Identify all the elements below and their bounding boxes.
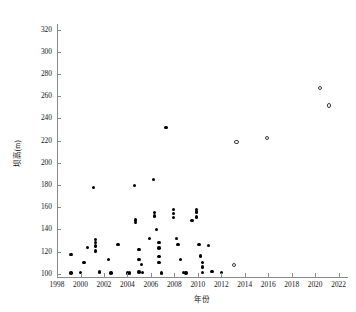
data-point-filled bbox=[109, 271, 112, 274]
data-point-filled bbox=[107, 258, 110, 261]
data-point-filled bbox=[172, 216, 175, 219]
data-point-open bbox=[234, 140, 238, 144]
data-point-filled bbox=[86, 246, 89, 249]
data-point-open bbox=[265, 136, 269, 140]
y-axis-tick bbox=[57, 229, 61, 230]
data-point-filled bbox=[195, 215, 198, 218]
y-axis-tick bbox=[57, 141, 61, 142]
data-point-filled bbox=[157, 246, 160, 249]
data-point-filled bbox=[137, 248, 140, 251]
data-point-filled bbox=[157, 255, 160, 258]
data-point-filled bbox=[137, 258, 140, 261]
data-point-filled bbox=[157, 261, 160, 264]
data-point-filled bbox=[134, 221, 137, 224]
y-axis-tick-label: 140 bbox=[24, 225, 52, 232]
data-point-filled bbox=[201, 271, 204, 274]
x-axis-tick bbox=[174, 273, 175, 277]
data-point-filled bbox=[210, 270, 213, 273]
x-axis-tick bbox=[268, 273, 269, 277]
y-axis-tick bbox=[57, 52, 61, 53]
data-point-filled bbox=[207, 244, 210, 247]
x-axis-tick bbox=[245, 273, 246, 277]
data-point-filled bbox=[201, 261, 204, 264]
data-point-filled bbox=[116, 243, 119, 246]
data-point-filled bbox=[141, 271, 144, 274]
data-point-filled bbox=[128, 271, 131, 274]
x-axis-tick bbox=[339, 273, 340, 277]
data-point-filled bbox=[82, 261, 85, 264]
data-point-filled bbox=[152, 178, 155, 181]
y-axis-tick bbox=[57, 30, 61, 31]
data-point-filled bbox=[164, 126, 167, 129]
x-axis-tick bbox=[81, 273, 82, 277]
x-axis-tick bbox=[127, 273, 128, 277]
data-point-filled bbox=[140, 263, 143, 266]
x-axis-tick bbox=[57, 273, 58, 277]
data-point-open bbox=[327, 103, 331, 107]
data-point-filled bbox=[157, 241, 160, 244]
data-point-filled bbox=[98, 270, 101, 273]
y-axis-tick bbox=[57, 207, 61, 208]
data-point-filled bbox=[184, 271, 187, 274]
data-point-filled bbox=[197, 243, 200, 246]
y-axis-tick-label: 220 bbox=[24, 137, 52, 144]
y-axis-tick-label: 260 bbox=[24, 92, 52, 99]
y-axis-tick-label: 160 bbox=[24, 203, 52, 210]
data-point-filled bbox=[190, 219, 193, 222]
y-axis-tick-label: 320 bbox=[24, 26, 52, 33]
y-axis-tick bbox=[57, 163, 61, 164]
data-point-filled bbox=[69, 253, 72, 256]
data-point-filled bbox=[179, 258, 182, 261]
scatter-chart: 坝高(m) 年份 1001201401601802002202402602803… bbox=[0, 0, 356, 312]
data-point-open bbox=[232, 263, 236, 267]
data-point-filled bbox=[160, 271, 163, 274]
x-axis-tick bbox=[315, 273, 316, 277]
x-axis-tick bbox=[104, 273, 105, 277]
y-axis-tick-label: 200 bbox=[24, 159, 52, 166]
x-axis-tick bbox=[151, 273, 152, 277]
y-axis-tick-label: 100 bbox=[24, 270, 52, 277]
data-point-filled bbox=[94, 244, 97, 247]
y-axis-tick-label: 300 bbox=[24, 48, 52, 55]
data-point-filled bbox=[155, 228, 158, 231]
y-axis-tick-label: 120 bbox=[24, 248, 52, 255]
data-point-filled bbox=[172, 212, 175, 215]
x-axis-tick bbox=[221, 273, 222, 277]
data-point-filled bbox=[94, 249, 97, 252]
data-point-filled bbox=[175, 237, 178, 240]
data-point-filled bbox=[195, 210, 198, 213]
data-point-filled bbox=[176, 243, 179, 246]
x-axis-tick bbox=[198, 273, 199, 277]
data-point-filled bbox=[92, 186, 95, 189]
y-axis-tick-label: 240 bbox=[24, 114, 52, 121]
data-point-filled bbox=[201, 265, 204, 268]
x-axis-tick bbox=[292, 273, 293, 277]
data-point-filled bbox=[133, 184, 136, 187]
y-axis-tick-label: 180 bbox=[24, 181, 52, 188]
x-axis-tick-label: 2022 bbox=[325, 281, 353, 288]
y-axis-tick bbox=[57, 185, 61, 186]
plot-area bbox=[0, 0, 356, 312]
y-axis-tick bbox=[57, 252, 61, 253]
data-point-filled bbox=[69, 271, 72, 274]
y-axis-tick bbox=[57, 74, 61, 75]
y-axis-tick bbox=[57, 96, 61, 97]
data-point-open bbox=[318, 86, 322, 90]
data-point-filled bbox=[199, 254, 202, 257]
data-point-filled bbox=[172, 208, 175, 211]
data-point-filled bbox=[148, 237, 151, 240]
data-point-filled bbox=[153, 214, 156, 217]
y-axis-tick bbox=[57, 118, 61, 119]
y-axis-tick-label: 280 bbox=[24, 70, 52, 77]
